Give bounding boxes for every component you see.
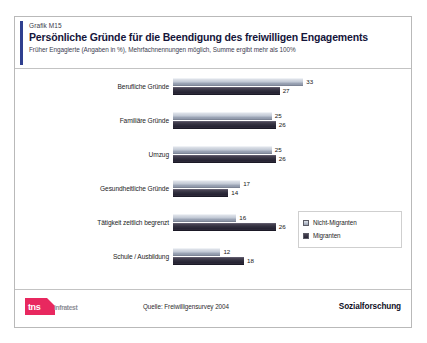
bar-nicht-migranten: [173, 112, 272, 120]
bar-value-label: 14: [231, 189, 238, 197]
page-title: Persönliche Gründe für die Beendigung de…: [29, 31, 405, 44]
brand-label: Sozialforschung: [339, 302, 401, 311]
chart-category-row: Familiäre Gründe2526: [15, 109, 411, 133]
category-bars: 1714: [173, 180, 411, 199]
bar-nicht-migranten: [173, 180, 240, 188]
bar-value-label: 26: [279, 223, 286, 231]
category-bars: 2526: [173, 112, 411, 131]
logo-secondary-text: infratest: [54, 303, 77, 312]
header-text-group: Grafik M15 Persönliche Gründe für die Be…: [29, 21, 405, 55]
bar-migranten: [173, 121, 276, 129]
bar-value-label: 33: [306, 78, 313, 86]
category-label: Familiäre Gründe: [15, 109, 169, 133]
chart-category-row: Gesundheitliche Gründe1714: [15, 177, 411, 201]
chart-plot-area: Berufliche Gründe3327Familiäre Gründe252…: [15, 69, 411, 289]
category-label: Gesundheitliche Gründe: [15, 177, 169, 201]
slide-header: Grafik M15 Persönliche Gründe für die Be…: [15, 17, 411, 69]
bar-value-label: 27: [283, 87, 290, 95]
bar-value-label: 17: [243, 180, 250, 188]
category-label: Umzug: [15, 143, 169, 167]
page-subtitle: Früher Engagierte (Angaben in %), Mehrfa…: [29, 45, 405, 55]
bar-migranten: [173, 87, 280, 95]
logo-primary-text: tns: [28, 302, 40, 313]
category-bars: 1218: [173, 248, 411, 267]
category-label: Tätigkeit zeitlich begrenzt: [15, 211, 169, 235]
chart-category-row: Berufliche Gründe3327: [15, 75, 411, 99]
slide-footer: tns infratest Quelle: Freiwilligensurvey…: [15, 289, 411, 327]
category-bars: 2526: [173, 146, 411, 165]
legend-swatch-icon-light: [303, 220, 309, 226]
bar-value-label: 26: [279, 155, 286, 163]
chart-category-row: Umzug2526: [15, 143, 411, 167]
legend-label-migranten: Migranten: [313, 232, 341, 239]
bar-value-label: 25: [275, 112, 282, 120]
bar-nicht-migranten: [173, 214, 236, 222]
bar-migranten: [173, 257, 244, 265]
bar-value-label: 12: [223, 248, 230, 256]
bar-nicht-migranten: [173, 248, 220, 256]
chart-number: Grafik M15: [29, 21, 405, 30]
bar-nicht-migranten: [173, 78, 303, 86]
bar-value-label: 26: [279, 121, 286, 129]
bar-nicht-migranten: [173, 146, 272, 154]
legend-swatch-icon-dark: [303, 233, 309, 239]
bar-migranten: [173, 189, 228, 197]
tns-infratest-logo: tns infratest: [25, 298, 83, 315]
bar-value-label: 25: [275, 146, 282, 154]
bar-migranten: [173, 155, 276, 163]
category-label: Schule / Ausbildung: [15, 245, 169, 269]
legend-label-nicht-migranten: Nicht-Migranten: [313, 219, 357, 226]
slide-frame: Grafik M15 Persönliche Gründe für die Be…: [14, 16, 412, 328]
category-label: Berufliche Gründe: [15, 75, 169, 99]
bar-value-label: 16: [239, 214, 246, 222]
chart-category-row: Schule / Ausbildung1218: [15, 245, 411, 269]
legend-item-nicht-migranten: Nicht-Migranten: [303, 216, 397, 229]
chart-legend: Nicht-Migranten Migranten: [298, 211, 402, 248]
bar-value-label: 18: [247, 257, 254, 265]
header-accent-bar: [20, 21, 23, 65]
bar-migranten: [173, 223, 276, 231]
source-note: Quelle: Freiwilligensurvey 2004: [143, 303, 229, 310]
legend-item-migranten: Migranten: [303, 229, 397, 242]
category-bars: 3327: [173, 78, 411, 97]
